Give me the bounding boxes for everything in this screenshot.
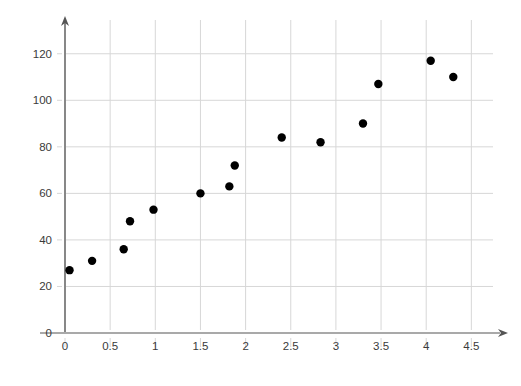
- data-point: [149, 205, 157, 213]
- x-tick-label: 3.5: [373, 340, 389, 352]
- data-point: [196, 189, 204, 197]
- y-tick-label: 40: [39, 234, 52, 246]
- data-point: [119, 245, 127, 253]
- y-tick-label: 20: [39, 280, 52, 292]
- tick-marks: [57, 54, 471, 347]
- y-tick-label: 0: [46, 327, 52, 339]
- data-point: [88, 257, 96, 265]
- data-point: [359, 119, 367, 127]
- y-tick-label: 120: [33, 48, 52, 60]
- y-axis-tick-labels: 020406080100120: [33, 48, 52, 339]
- x-tick-label: 4.5: [463, 340, 479, 352]
- scatter-chart: 00.511.522.533.544.5 020406080100120: [0, 0, 521, 386]
- data-point: [126, 217, 134, 225]
- x-tick-label: 0.5: [102, 340, 118, 352]
- data-point: [374, 80, 382, 88]
- x-axis-tick-labels: 00.511.522.533.544.5: [62, 340, 480, 352]
- grid-lines: [66, 20, 493, 330]
- data-points: [65, 57, 457, 275]
- x-tick-label: 3: [333, 340, 339, 352]
- data-point: [449, 73, 457, 81]
- y-tick-label: 80: [39, 141, 52, 153]
- x-tick-label: 0: [62, 340, 68, 352]
- y-tick-label: 60: [39, 187, 52, 199]
- x-tick-label: 2.5: [283, 340, 299, 352]
- data-point: [65, 266, 73, 274]
- plot-canvas: 00.511.522.533.544.5 020406080100120: [0, 0, 521, 386]
- data-point: [278, 133, 286, 141]
- y-tick-label: 100: [33, 94, 52, 106]
- x-tick-label: 1.5: [192, 340, 208, 352]
- data-point: [316, 138, 324, 146]
- data-point: [231, 161, 239, 169]
- data-point: [225, 182, 233, 190]
- x-tick-label: 2: [242, 340, 248, 352]
- data-point: [427, 57, 435, 65]
- x-tick-label: 4: [423, 340, 430, 352]
- x-tick-label: 1: [152, 340, 158, 352]
